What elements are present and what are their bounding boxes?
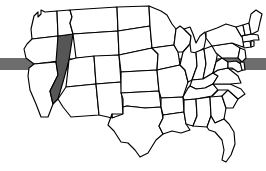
state-RI[interactable] — [251, 41, 254, 47]
state-AZ[interactable] — [58, 84, 99, 117]
state-NJ[interactable] — [238, 48, 246, 62]
state-WY[interactable] — [73, 31, 119, 58]
us-states-layer — [0, 0, 266, 171]
state-MO[interactable] — [157, 65, 188, 98]
state-NM[interactable] — [96, 82, 123, 118]
state-KS[interactable] — [121, 70, 159, 93]
state-CO[interactable] — [94, 55, 121, 84]
state-OR[interactable] — [24, 36, 59, 64]
state-FL[interactable] — [207, 116, 235, 162]
state-ME[interactable] — [249, 10, 262, 34]
state-UT[interactable] — [66, 56, 96, 87]
state-MT[interactable] — [70, 7, 118, 34]
state-MN[interactable] — [149, 6, 176, 48]
state-WA[interactable] — [31, 10, 58, 39]
us-map-graphic — [0, 0, 266, 171]
